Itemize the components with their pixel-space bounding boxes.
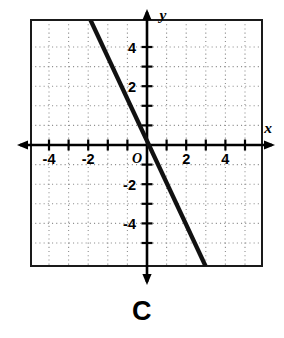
x-tick-label-neg2: -2 xyxy=(82,151,95,167)
y-tick-label-neg4: -4 xyxy=(123,216,136,232)
y-tick-label-2: 2 xyxy=(128,79,136,95)
y-axis-arrow-up xyxy=(142,9,151,20)
x-tick-label-neg4: -4 xyxy=(43,151,56,167)
y-axis-label: y xyxy=(158,6,167,23)
coordinate-plane: -4 -2 2 4 4 2 -2 -4 O y x xyxy=(0,0,284,338)
x-axis-arrow-right xyxy=(264,140,275,149)
x-tick-label-2: 2 xyxy=(182,151,190,167)
graph-figure: -4 -2 2 4 4 2 -2 -4 O y x C xyxy=(0,0,284,338)
x-tick-label-4: 4 xyxy=(221,151,229,167)
origin-label: O xyxy=(132,151,142,166)
answer-choice-label: C xyxy=(0,296,284,326)
y-axis-arrow-down xyxy=(142,274,151,285)
y-tick-label-neg2: -2 xyxy=(123,177,136,193)
x-axis-label: x xyxy=(263,119,272,136)
y-tick-label-4: 4 xyxy=(128,40,136,56)
x-axis-arrow-left xyxy=(17,140,28,149)
